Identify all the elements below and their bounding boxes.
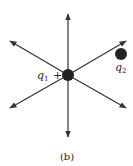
- q1-sign: +: [53, 69, 62, 82]
- q1-symbol: q: [37, 69, 44, 82]
- charge-q1: [62, 69, 74, 81]
- field-line-lower-right: [68, 75, 126, 108]
- field-diagram: + q1 q2 (b): [0, 0, 133, 166]
- charge-q2: [115, 48, 127, 60]
- q2-label: q2: [115, 61, 127, 75]
- figure-caption: (b): [60, 151, 74, 162]
- q1-subscript: 1: [44, 75, 48, 83]
- q1-label: q1: [37, 69, 49, 83]
- q2-symbol: q: [115, 61, 122, 74]
- q2-subscript: 2: [122, 67, 126, 75]
